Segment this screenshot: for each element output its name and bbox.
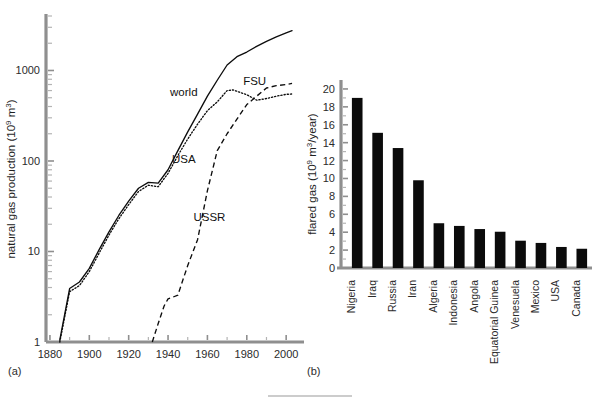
y-tick-label: 12 [323, 155, 335, 167]
y-tick-label: 10 [323, 172, 335, 184]
bar-russia [393, 148, 404, 268]
category-label-russia: Russia [386, 280, 398, 312]
panel-a-x-axis-ticks [50, 335, 286, 340]
panel-a-x-tick-labels: 1880190019201940196019802000 [38, 348, 299, 360]
category-label-equatorial-guinea: Equatorial Guinea [488, 280, 500, 364]
category-label-nigeria: Nigeria [345, 280, 357, 313]
category-label-algeria: Algeria [427, 280, 439, 313]
bar-equatorial-guinea [495, 232, 506, 268]
bar-mexico [536, 243, 547, 268]
y-tick-label: 8 [329, 190, 335, 202]
x-tick-label: 1880 [38, 348, 62, 360]
bar-venesuela [515, 241, 526, 268]
category-label-usa: USA [549, 280, 561, 302]
category-label-indonesia: Indonesia [447, 280, 459, 326]
category-label-mexico: Mexico [529, 280, 541, 313]
x-tick-label: 1900 [77, 348, 101, 360]
category-label-iraq: Iraq [366, 280, 378, 298]
annotation-ussr: USSR [193, 211, 225, 223]
panel-b-category-labels: NigeriaIraqRussiaIranAlgeriaIndonesiaAng… [345, 280, 582, 364]
panel-a-y-axis-title: natural gas production (109 m3) [4, 99, 18, 258]
panel-b-y-axis-ticks [343, 89, 348, 268]
bar-nigeria [352, 98, 363, 268]
panel-b-bar-chart: 02468101214161820 NigeriaIraqRussiaIranA… [305, 80, 593, 377]
y-tick-label: 0 [329, 262, 335, 274]
category-label-angola: Angola [468, 280, 480, 313]
y-tick-label: 1 [34, 336, 40, 348]
panel-a-line-chart: 1101001000 1880190019201940196019802000 … [4, 14, 305, 377]
bar-algeria [434, 223, 445, 268]
bar-iran [413, 180, 424, 268]
category-label-iran: Iran [406, 280, 418, 298]
x-tick-label: 1960 [195, 348, 219, 360]
panel-b-y-tick-labels: 02468101214161820 [323, 83, 335, 274]
y-tick-label: 18 [323, 101, 335, 113]
category-label-venesuela: Venesuela [509, 280, 521, 329]
y-tick-label: 2 [329, 244, 335, 256]
panel-b-y-axis-title: flared gas (109 m3/year) [305, 113, 319, 235]
panel-b-label: (b) [307, 365, 320, 377]
x-tick-label: 1940 [156, 348, 180, 360]
panel-b-bars [352, 98, 587, 268]
panel-a-label: (a) [8, 365, 21, 377]
series-line-usa [60, 90, 292, 342]
y-tick-label: 10 [28, 245, 40, 257]
y-tick-label: 14 [323, 137, 335, 149]
y-tick-label: 16 [323, 119, 335, 131]
bar-canada [576, 249, 587, 268]
annotation-usa: USA [172, 153, 196, 165]
category-label-canada: Canada [570, 280, 582, 317]
y-tick-label: 20 [323, 83, 335, 95]
panel-a-y-axis-ticks [48, 16, 54, 342]
y-tick-label: 100 [22, 155, 40, 167]
annotation-fsu: FSU [243, 75, 266, 87]
y-tick-label: 6 [329, 208, 335, 220]
panel-a-y-tick-labels: 1101001000 [16, 64, 40, 348]
x-tick-label: 2000 [274, 348, 298, 360]
x-tick-label: 1920 [116, 348, 140, 360]
y-tick-label: 1000 [16, 64, 40, 76]
bar-angola [474, 229, 485, 268]
figure-root: 1101001000 1880190019201940196019802000 … [0, 0, 602, 404]
x-tick-label: 1980 [235, 348, 259, 360]
annotation-world: world [169, 86, 197, 98]
bar-indonesia [454, 226, 465, 268]
bar-iraq [372, 133, 383, 268]
bar-usa [556, 247, 567, 268]
y-tick-label: 4 [329, 226, 335, 238]
